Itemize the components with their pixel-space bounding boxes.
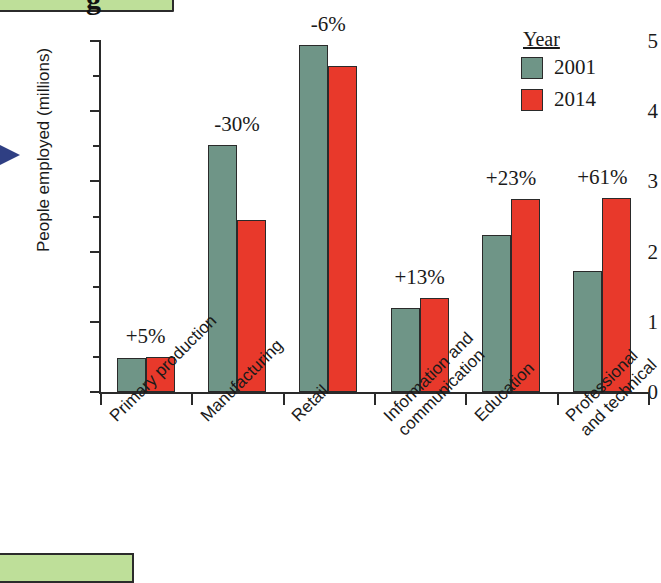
legend-entry: 2014 <box>521 87 641 112</box>
x-tick <box>283 392 285 405</box>
y-tick-minor <box>93 145 100 147</box>
legend-swatch <box>521 89 543 111</box>
legend-entries: 20012014 <box>521 55 641 112</box>
x-tick <box>100 392 102 405</box>
bar-change-annotation: +23% <box>486 166 536 191</box>
bar-2001 <box>573 271 602 392</box>
y-tick-minor <box>93 356 100 358</box>
bar-2001 <box>482 235 511 392</box>
x-tick <box>191 392 193 405</box>
legend: Year 20012014 <box>521 28 641 119</box>
bar-change-annotation: -30% <box>214 112 260 137</box>
legend-title: Year <box>523 28 641 51</box>
bar-2001 <box>208 145 237 392</box>
bar-change-annotation: +13% <box>394 265 444 290</box>
y-tick-major <box>90 391 100 393</box>
x-tick <box>465 392 467 405</box>
y-tick-minor <box>93 286 100 288</box>
x-tick <box>374 392 376 405</box>
x-tick <box>648 392 650 405</box>
bar-change-annotation: +5% <box>126 324 166 349</box>
y-tick-major <box>90 321 100 323</box>
bar-2001 <box>299 45 328 392</box>
y-tick-minor <box>93 216 100 218</box>
y-tick-major <box>90 180 100 182</box>
y-tick-major <box>90 40 100 42</box>
bar-change-annotation: -6% <box>311 12 346 37</box>
legend-label: 2014 <box>554 87 596 112</box>
y-axis-title: People employed (millions) <box>34 20 54 280</box>
y-tick-major <box>90 251 100 253</box>
y-tick-minor <box>93 75 100 77</box>
legend-label: 2001 <box>554 55 596 80</box>
x-tick <box>557 392 559 405</box>
legend-swatch <box>521 57 543 79</box>
bar-change-annotation: +61% <box>577 165 627 190</box>
y-tick-major <box>90 110 100 112</box>
bar-2014 <box>328 66 357 392</box>
legend-entry: 2001 <box>521 55 641 80</box>
